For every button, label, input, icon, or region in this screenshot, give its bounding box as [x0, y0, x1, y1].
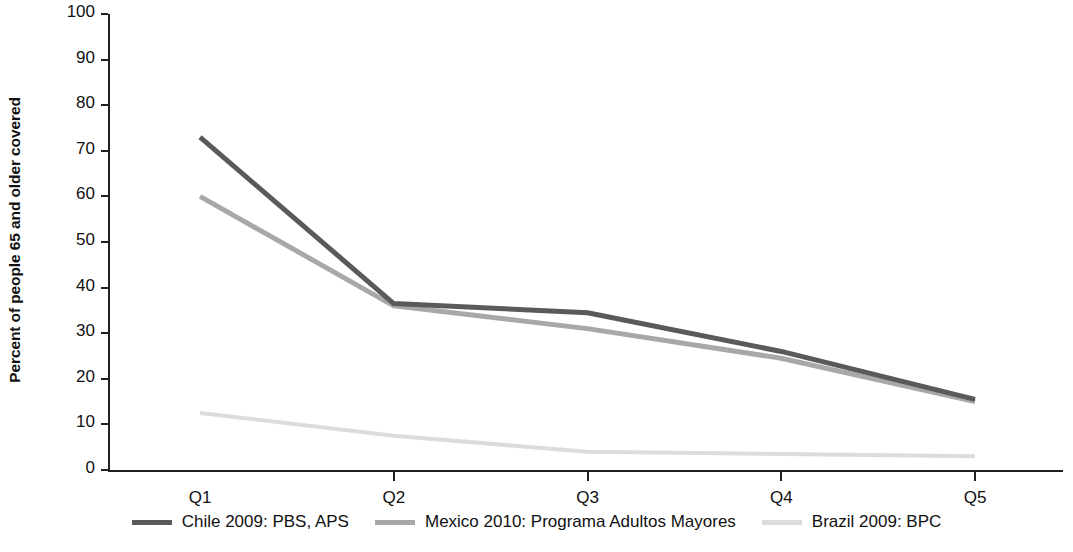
- legend-swatch-icon: [375, 520, 415, 525]
- y-tick-mark: 0: [101, 469, 108, 471]
- y-tick-mark: 70: [101, 150, 108, 152]
- y-tick-mark: 40: [101, 287, 108, 289]
- y-tick-mark: 30: [101, 332, 108, 334]
- y-tick-label: 60: [55, 184, 95, 204]
- y-tick-mark: 50: [101, 241, 108, 243]
- y-tick-label: 0: [55, 458, 95, 478]
- y-tick-mark: 20: [101, 378, 108, 380]
- legend-swatch-icon: [762, 520, 802, 525]
- y-tick-label: 10: [55, 412, 95, 432]
- series-line: [200, 413, 975, 456]
- x-tick-label: Q1: [189, 488, 212, 508]
- y-tick-mark: 100: [101, 13, 108, 15]
- legend-label: Mexico 2010: Programa Adultos Mayores: [425, 512, 736, 532]
- y-tick-mark: 80: [101, 104, 108, 106]
- y-tick-label: 40: [55, 276, 95, 296]
- legend-label: Chile 2009: PBS, APS: [182, 512, 349, 532]
- series-lines: [108, 10, 1063, 476]
- y-tick-label: 20: [55, 367, 95, 387]
- legend-item[interactable]: Mexico 2010: Programa Adultos Mayores: [375, 512, 736, 532]
- x-tick-label: Q2: [382, 488, 405, 508]
- y-tick-label: 100: [55, 2, 95, 22]
- y-tick-label: 70: [55, 139, 95, 159]
- legend-item[interactable]: Brazil 2009: BPC: [762, 512, 941, 532]
- y-tick-mark: 60: [101, 195, 108, 197]
- plot-area: 0102030405060708090100 Q1Q2Q3Q4Q5: [108, 10, 1063, 476]
- chart-legend: Chile 2009: PBS, APSMexico 2010: Program…: [0, 512, 1073, 532]
- y-axis-title: Percent of people 65 and older covered: [0, 0, 30, 480]
- y-tick-label: 80: [55, 93, 95, 113]
- chart-figure: Percent of people 65 and older covered 0…: [0, 0, 1073, 552]
- y-tick-label: 90: [55, 48, 95, 68]
- x-tick-label: Q4: [770, 488, 793, 508]
- series-line: [200, 137, 975, 399]
- x-tick-label: Q5: [964, 488, 987, 508]
- y-tick-label: 50: [55, 230, 95, 250]
- legend-item[interactable]: Chile 2009: PBS, APS: [132, 512, 349, 532]
- legend-label: Brazil 2009: BPC: [812, 512, 941, 532]
- y-tick-mark: 90: [101, 59, 108, 61]
- legend-swatch-icon: [132, 520, 172, 525]
- y-tick-label: 30: [55, 321, 95, 341]
- x-tick-label: Q3: [576, 488, 599, 508]
- y-tick-mark: 10: [101, 423, 108, 425]
